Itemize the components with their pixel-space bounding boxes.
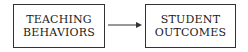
box-label-line: TEACHING [26, 13, 92, 26]
teaching-behaviors-box: TEACHING BEHAVIORS [13, 4, 105, 48]
box-label-line: OUTCOMES [155, 26, 227, 39]
arrow-right-icon [107, 19, 143, 31]
student-outcomes-box: STUDENT OUTCOMES [145, 4, 236, 48]
box-label-line: STUDENT [161, 13, 220, 26]
box-label-line: BEHAVIORS [23, 26, 95, 39]
